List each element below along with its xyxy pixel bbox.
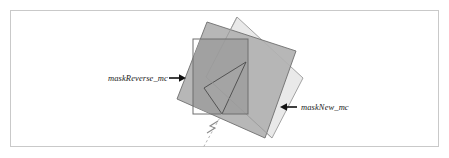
figure-container: maskReverse_mc maskNew_mc (0, 0, 449, 158)
arrow-to-mask-reverse (169, 74, 186, 82)
label-mask-reverse: maskReverse_mc (108, 73, 168, 83)
line-break-mark (207, 121, 218, 133)
label-mask-new: maskNew_mc (301, 102, 349, 112)
registration-dashed-line (203, 114, 222, 148)
mask-overlap-diagram: maskReverse_mc maskNew_mc (0, 0, 449, 158)
